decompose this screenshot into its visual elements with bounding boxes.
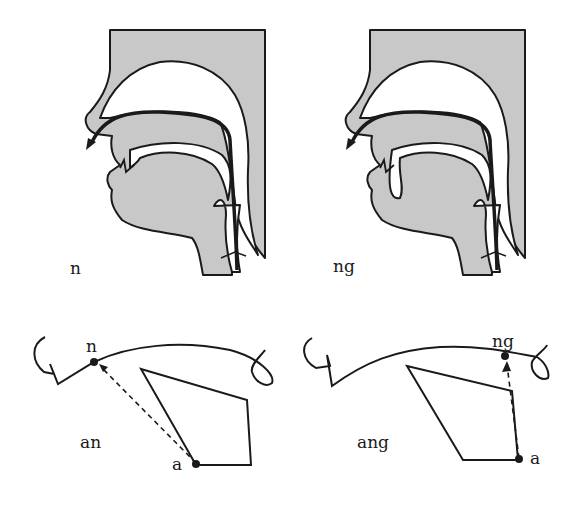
label-point-a-ang: a: [530, 450, 540, 467]
point-ng: [501, 352, 509, 360]
label-point-n: n: [86, 338, 97, 355]
vowel-space-ang: [407, 366, 518, 460]
vowel-space-an: [141, 369, 251, 465]
palate-outline-an: [34, 337, 272, 385]
point-n: [90, 358, 98, 366]
tongue-trajectory-an: [34, 337, 272, 465]
label-syllable-ang: ang: [357, 434, 389, 451]
label-syllable-an: an: [80, 434, 101, 451]
label-point-ng: ng: [492, 333, 514, 350]
label-n-section: n: [70, 260, 81, 277]
label-ng-section: ng: [333, 258, 355, 275]
point-a-an: [192, 460, 200, 468]
sagittal-section-n: [86, 30, 265, 275]
label-point-a-an: a: [172, 456, 182, 473]
tongue-trajectory-ang: [304, 338, 548, 460]
point-a-ang: [515, 455, 523, 463]
sagittal-section-ng: [346, 30, 525, 275]
